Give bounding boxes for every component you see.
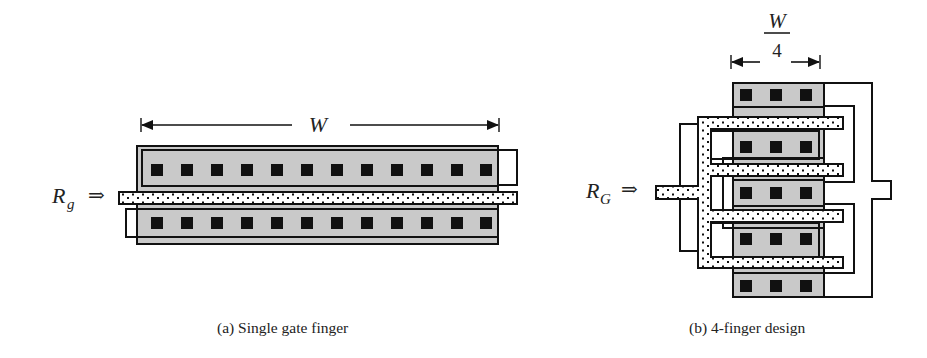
fraction-denominator: 4 bbox=[772, 40, 782, 61]
finger-width-dimension: W 4 bbox=[731, 9, 820, 69]
input-arrow-icon: ⇒ bbox=[621, 178, 638, 200]
gate-resistance-label: R G ⇒ bbox=[585, 178, 638, 207]
mosfet-layout-figure: W bbox=[0, 0, 927, 358]
panel-a-single-gate-finger: W bbox=[51, 112, 517, 337]
gate-poly-finger bbox=[119, 192, 517, 204]
drain-tab bbox=[498, 150, 517, 185]
caption-a: (a) Single gate finger bbox=[217, 319, 349, 337]
source-tab bbox=[126, 209, 137, 237]
fraction-numerator: W bbox=[768, 9, 788, 33]
svg-text:g: g bbox=[67, 196, 75, 212]
caption-b: (b) 4-finger design bbox=[689, 319, 805, 337]
width-dimension-arrow: W bbox=[141, 112, 499, 137]
svg-text:R: R bbox=[51, 183, 66, 208]
svg-text:R: R bbox=[585, 178, 600, 203]
input-arrow-icon: ⇒ bbox=[88, 184, 105, 206]
svg-text:G: G bbox=[600, 191, 611, 207]
panel-b-four-finger-design: W 4 bbox=[585, 9, 891, 337]
gate-resistance-label: R g ⇒ bbox=[51, 183, 105, 212]
width-label: W bbox=[309, 112, 329, 137]
source-bus-metal bbox=[680, 117, 698, 251]
